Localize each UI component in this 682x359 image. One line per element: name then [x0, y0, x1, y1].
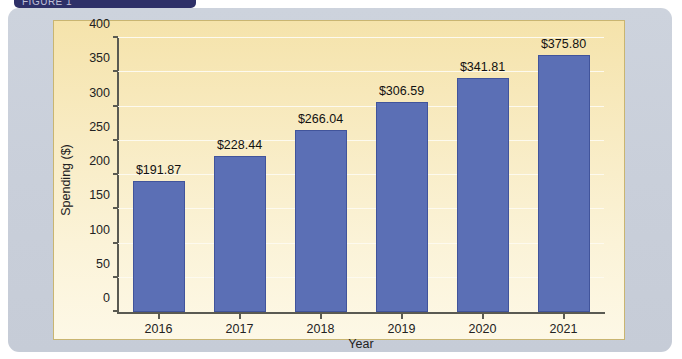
x-axis-line: [117, 312, 605, 314]
bar-slot: $341.812020: [442, 38, 523, 312]
x-tick-label: 2019: [388, 322, 416, 336]
x-axis-label: Year: [118, 337, 604, 351]
bar-value-label: $266.04: [298, 112, 343, 126]
bar-value-label: $306.59: [379, 84, 424, 98]
bar[interactable]: $191.87: [133, 181, 185, 312]
bar[interactable]: $266.04: [295, 130, 347, 312]
bar-slot: $306.592019: [361, 38, 442, 312]
bar-value-label: $191.87: [136, 163, 181, 177]
plot-area: 050100150200250300350400 $191.872016$228…: [118, 38, 604, 312]
x-tick-mark: [320, 312, 322, 319]
x-tick-label: 2020: [469, 322, 497, 336]
y-tick-label: 150: [89, 188, 110, 202]
bar[interactable]: $228.44: [214, 156, 266, 312]
y-tick-label: 350: [89, 51, 110, 65]
bar-value-label: $341.81: [460, 60, 505, 74]
x-tick-mark: [563, 312, 565, 319]
chart-panel: Spending ($) 050100150200250300350400 $1…: [53, 20, 625, 340]
x-tick-label: 2021: [550, 322, 578, 336]
y-tick-label: 300: [89, 86, 110, 100]
y-tick-label: 100: [89, 223, 110, 237]
figure-header-label: FIGURE 1: [22, 0, 72, 7]
y-tick-label: 250: [89, 120, 110, 134]
bar-slot: $375.802021: [523, 38, 604, 312]
bar[interactable]: $375.80: [538, 55, 590, 312]
plot-wrapper: Spending ($) 050100150200250300350400 $1…: [54, 21, 624, 339]
bar-value-label: $375.80: [541, 37, 586, 51]
figure-frame: Spending ($) 050100150200250300350400 $1…: [8, 8, 672, 352]
x-tick-mark: [239, 312, 241, 319]
x-tick-label: 2018: [307, 322, 335, 336]
y-tick-label: 200: [89, 154, 110, 168]
bar-series: $191.872016$228.442017$266.042018$306.59…: [118, 38, 604, 312]
bar-slot: $191.872016: [118, 38, 199, 312]
bar-value-label: $228.44: [217, 138, 262, 152]
bar[interactable]: $306.59: [376, 102, 428, 312]
bar-slot: $228.442017: [199, 38, 280, 312]
y-tick-label: 50: [96, 257, 110, 271]
x-tick-mark: [158, 312, 160, 319]
y-tick-label: 0: [103, 291, 110, 305]
figure-header-tab: FIGURE 1: [14, 0, 196, 8]
x-tick-label: 2016: [145, 322, 173, 336]
x-tick-mark: [401, 312, 403, 319]
bar[interactable]: $341.81: [457, 78, 509, 312]
y-axis-label: Spending ($): [59, 144, 73, 216]
x-tick-label: 2017: [226, 322, 254, 336]
bar-slot: $266.042018: [280, 38, 361, 312]
x-tick-mark: [482, 312, 484, 319]
y-tick-label: 400: [89, 17, 110, 31]
